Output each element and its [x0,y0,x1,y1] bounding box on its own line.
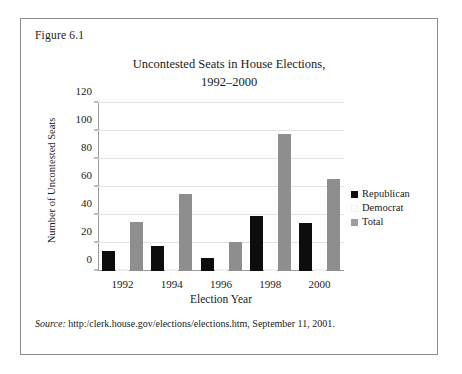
bar-democrat-1998 [264,269,277,271]
legend-item-total: Total [351,215,410,229]
bar-total-1998 [278,134,291,271]
legend-swatch-total-icon [351,219,358,226]
bar-democrat-2000 [313,269,326,271]
y-tick-label: 120 [76,85,93,97]
y-tick-mark [94,242,98,243]
y-tick-mark [94,130,98,131]
y-tick-mark [94,158,98,159]
bar-republican-2000 [299,223,312,271]
y-tick-mark [94,102,98,103]
y-tick-label: 20 [81,225,92,237]
x-tick-label: 2000 [308,278,330,290]
bar-group: 1998 [250,103,291,271]
bar-republican-1996 [201,258,214,271]
source-note: Source: http:/clerk.house.gov/elections/… [35,318,335,329]
bar-total-2000 [327,179,340,271]
chart-legend: RepublicanDemocratTotal [351,187,410,229]
y-axis-title: Number of Uncontested Seats [46,93,57,268]
bar-democrat-1992 [116,269,129,271]
source-label: Source: [35,318,66,329]
plot-area: 020406080100120 19921994199619982000 [98,103,344,271]
y-axis-line [98,103,99,271]
y-tick-mark [94,186,98,187]
legend-label: Total [362,215,383,229]
legend-item-democrat: Democrat [351,201,410,215]
y-tick-mark [94,270,98,271]
bar-democrat-1994 [165,269,178,271]
bar-group: 1996 [201,103,242,271]
y-tick-label: 40 [81,197,92,209]
bar-republican-1994 [151,246,164,271]
figure-number: Figure 6.1 [35,29,84,41]
bar-total-1996 [229,242,242,271]
chart-title-line1: Uncontested Seats in House Elections, [133,57,326,71]
x-axis-title: Election Year [98,293,344,305]
bar-total-1992 [130,222,143,271]
bar-republican-1998 [250,216,263,271]
y-tick-label: 60 [81,169,92,181]
bar-group: 2000 [299,103,340,271]
y-tick-label: 0 [87,253,93,265]
legend-swatch-republican-icon [351,191,358,198]
x-tick-label: 1994 [161,278,183,290]
legend-item-republican: Republican [351,187,410,201]
bar-republican-1992 [102,251,115,271]
figure-box: Figure 6.1 Uncontested Seats in House El… [20,18,438,355]
bar-democrat-1996 [215,269,228,271]
x-tick-label: 1998 [259,278,281,290]
y-tick-label: 100 [76,113,93,125]
legend-label: Republican [362,187,410,201]
bar-total-1994 [179,194,192,271]
x-tick-label: 1992 [112,278,134,290]
x-tick-label: 1996 [210,278,232,290]
y-tick-label: 80 [81,141,92,153]
y-tick-mark [94,214,98,215]
bar-group: 1992 [102,103,143,271]
plot-wrap: Number of Uncontested Seats 020406080100… [21,97,439,312]
source-text: http:/clerk.house.gov/elections/election… [68,318,335,329]
legend-swatch-democrat-icon [351,205,358,212]
legend-label: Democrat [362,201,403,215]
bar-group: 1994 [151,103,192,271]
